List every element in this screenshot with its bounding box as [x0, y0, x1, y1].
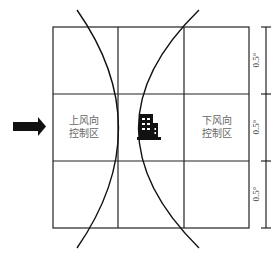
- upwind-label-line1: 上风向: [64, 114, 104, 127]
- building-icon: [137, 114, 161, 140]
- downwind-label-line1: 下风向: [197, 114, 237, 127]
- upwind-label-line2: 控制区: [64, 127, 104, 140]
- dimension-label-middle: 0.5°: [251, 112, 261, 142]
- downwind-zone-label: 下风向 控制区: [197, 114, 237, 140]
- dimension-scale: [261, 27, 271, 228]
- control-zone-diagram: [0, 0, 280, 260]
- dimension-label-bottom: 0.5°: [251, 179, 261, 209]
- dimension-label-top: 0.5°: [251, 45, 261, 75]
- arrow-right-icon: [13, 117, 46, 136]
- downwind-label-line2: 控制区: [197, 127, 237, 140]
- upwind-zone-label: 上风向 控制区: [64, 114, 104, 140]
